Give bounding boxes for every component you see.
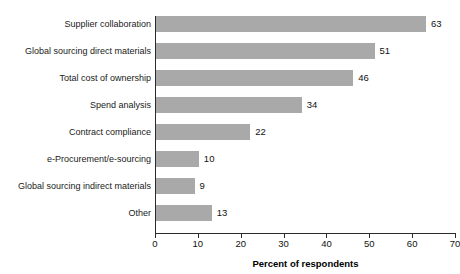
- category-label: Global sourcing indirect materials: [18, 178, 151, 194]
- category-label: Other: [128, 205, 151, 221]
- x-axis-tick-label: 40: [321, 238, 332, 249]
- bar[interactable]: [156, 43, 375, 59]
- x-axis-tick-label: 20: [235, 238, 246, 249]
- bar-row: Spend analysis34: [0, 97, 457, 113]
- bar-value-label: 9: [200, 178, 205, 194]
- x-axis-tick-label: 70: [450, 238, 460, 249]
- bar-value-label: 13: [217, 205, 228, 221]
- bar-row: Total cost of ownership46: [0, 70, 457, 86]
- x-axis-tick-label: 60: [407, 238, 418, 249]
- category-label: Supplier collaboration: [64, 16, 151, 32]
- bar[interactable]: [156, 16, 426, 32]
- x-axis-line: [155, 233, 456, 234]
- x-axis-tick-label: 50: [364, 238, 375, 249]
- bar-value-label: 51: [380, 43, 391, 59]
- bar[interactable]: [156, 205, 212, 221]
- bar-row: Global sourcing indirect materials9: [0, 178, 457, 194]
- bar-value-label: 46: [358, 70, 369, 86]
- bar[interactable]: [156, 151, 199, 167]
- bar-row: Contract compliance22: [0, 124, 457, 140]
- category-label: Spend analysis: [90, 97, 151, 113]
- category-label: e-Procurement/e-sourcing: [47, 151, 151, 167]
- category-label: Global sourcing direct materials: [25, 43, 151, 59]
- bar[interactable]: [156, 178, 195, 194]
- bar-value-label: 10: [204, 151, 215, 167]
- bar-value-label: 22: [255, 124, 266, 140]
- category-label: Contract compliance: [69, 124, 151, 140]
- bar[interactable]: [156, 70, 353, 86]
- category-label: Total cost of ownership: [59, 70, 151, 86]
- bar-row: Other13: [0, 205, 457, 221]
- bar-row: Global sourcing direct materials51: [0, 43, 457, 59]
- bar-value-label: 63: [431, 16, 442, 32]
- x-axis-title: Percent of respondents: [155, 258, 456, 269]
- clipped-header-text: [6, 0, 446, 3]
- x-axis-tick-label: 10: [193, 238, 204, 249]
- bar-value-label: 34: [307, 97, 318, 113]
- bar-row: e-Procurement/e-sourcing10: [0, 151, 457, 167]
- x-axis-tick-label: 0: [152, 238, 157, 249]
- bar[interactable]: [156, 97, 302, 113]
- bar-row: Supplier collaboration63: [0, 16, 457, 32]
- x-axis-tick-label: 30: [278, 238, 289, 249]
- bar[interactable]: [156, 124, 250, 140]
